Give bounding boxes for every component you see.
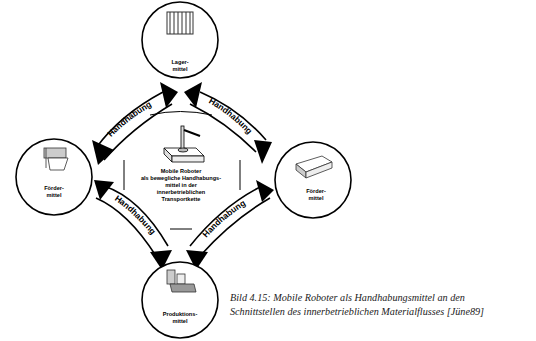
- svg-text:als bewegliche Handhabungs-: als bewegliche Handhabungs-: [141, 175, 221, 181]
- caption-line-1: Bild 4.15: Mobile Roboter als Handhabung…: [230, 291, 536, 305]
- node-label: mittel: [309, 195, 324, 201]
- node-label: mittel: [173, 66, 188, 72]
- caption-line-2: Schnittstellen des innerbetrieblichen Ma…: [230, 305, 536, 319]
- arrow-label-top-left: Handhabung: [105, 99, 153, 139]
- node-foerdermittel-left: Förder- mittel: [16, 139, 92, 215]
- svg-text:mittel in der: mittel in der: [165, 182, 198, 188]
- center-label: Mobile Roboter als bewegliche Handhabung…: [141, 168, 221, 202]
- arrow-label-bottom-left: Handhabung: [113, 193, 158, 236]
- node-foerdermittel-right: Förder- mittel: [275, 142, 351, 218]
- node-label: mittel: [173, 318, 188, 324]
- storage-rack-icon: [167, 12, 193, 34]
- mobile-robot-icon: [164, 126, 204, 162]
- figure-caption: Bild 4.15: Mobile Roboter als Handhabung…: [230, 291, 536, 319]
- node-lagermittel: Lager- mittel: [142, 2, 218, 78]
- svg-text:innerbetrieblichen: innerbetrieblichen: [157, 189, 206, 195]
- svg-text:Mobile Roboter: Mobile Roboter: [161, 168, 203, 174]
- node-label: Produktions-: [163, 311, 198, 317]
- node-label: Lager-: [171, 59, 188, 65]
- handling-diagram: Handhabung Handhabung Handhabung Handhab…: [0, 0, 536, 341]
- node-label: mittel: [47, 192, 62, 198]
- node-produktionsmittel: Produktions- mittel: [142, 262, 218, 338]
- node-label: Förder-: [306, 188, 326, 194]
- node-label: Förder-: [44, 185, 64, 191]
- svg-text:Transportkette: Transportkette: [162, 196, 201, 202]
